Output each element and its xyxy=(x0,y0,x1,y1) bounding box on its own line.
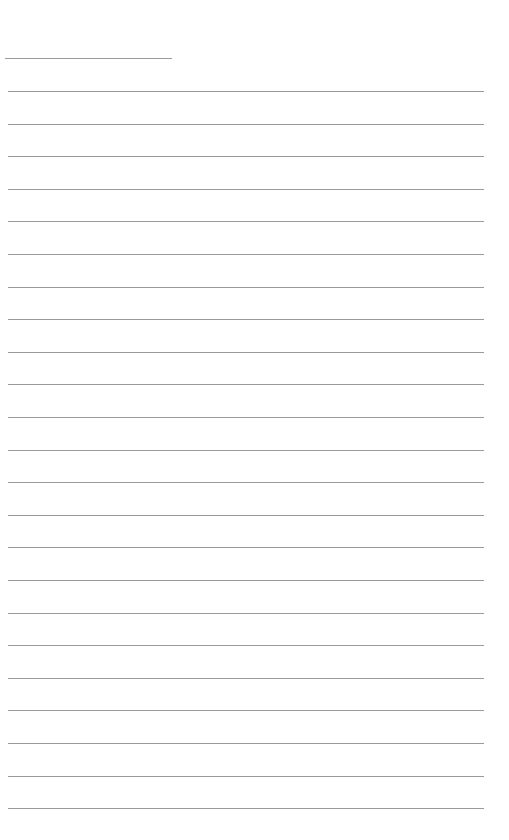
ruled-line xyxy=(8,124,484,125)
ruled-line xyxy=(8,384,484,385)
ruled-line xyxy=(8,221,484,222)
ruled-line xyxy=(8,710,484,711)
ruled-line xyxy=(8,319,484,320)
ruled-line xyxy=(8,743,484,744)
ruled-line xyxy=(8,417,484,418)
ruled-line xyxy=(8,352,484,353)
ruled-line xyxy=(8,287,484,288)
ruled-line xyxy=(8,91,484,92)
ruled-line xyxy=(8,678,484,679)
header-rule xyxy=(5,58,172,59)
ruled-line xyxy=(8,515,484,516)
ruled-line xyxy=(8,156,484,157)
ruled-line xyxy=(8,450,484,451)
ruled-line xyxy=(8,189,484,190)
ruled-line xyxy=(8,808,484,809)
ruled-line xyxy=(8,547,484,548)
ruled-line xyxy=(8,776,484,777)
ruled-line xyxy=(8,254,484,255)
ruled-line xyxy=(8,580,484,581)
ruled-line xyxy=(8,482,484,483)
ruled-line xyxy=(8,645,484,646)
ruled-line xyxy=(8,613,484,614)
